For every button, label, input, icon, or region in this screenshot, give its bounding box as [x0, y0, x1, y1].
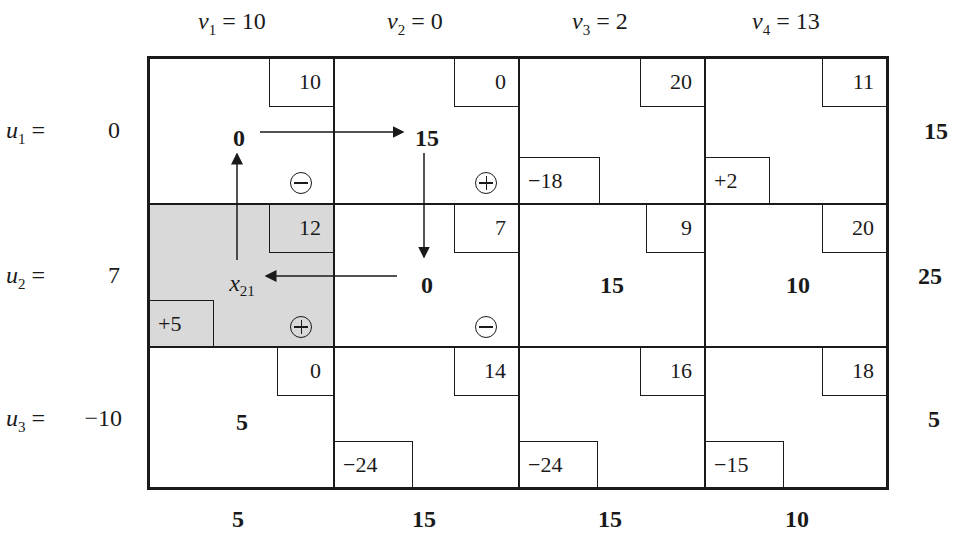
cost-box: 20 [640, 59, 704, 107]
reduced-cost-box: −18 [520, 157, 600, 203]
reduced-cost-box: +5 [150, 300, 214, 346]
supply-row-1: 15 [924, 118, 948, 145]
cost-box: 0 [277, 348, 333, 396]
transportation-tableau: 10 0 0 15 20 −18 11 +2 12 x21 +5 7 0 9 1… [147, 56, 889, 490]
cell-3-1: 0 5 [150, 348, 335, 487]
minus-circle-icon [475, 316, 497, 338]
cost-box: 11 [822, 59, 886, 107]
demand-col-4: 10 [785, 506, 809, 533]
cell-2-1-entering: 12 x21 +5 [150, 205, 335, 348]
allocation: 0 [233, 125, 245, 152]
allocation: 5 [236, 409, 248, 436]
cost-box: 0 [454, 59, 518, 107]
plus-circle-icon [290, 316, 312, 338]
cell-2-3: 9 15 [520, 205, 706, 348]
cell-2-4: 20 10 [706, 205, 886, 348]
reduced-cost-box: −24 [335, 441, 413, 487]
cell-1-2: 0 15 [335, 59, 520, 205]
allocation: 15 [415, 125, 439, 152]
cost-box: 7 [454, 205, 518, 253]
minus-circle-icon [290, 172, 312, 194]
reduced-cost-box: +2 [706, 157, 770, 203]
column-potential-v4: v4 = 13 [752, 8, 820, 39]
reduced-cost-box: −24 [520, 441, 598, 487]
cell-3-2: 14 −24 [335, 348, 520, 487]
cell-1-3: 20 −18 [520, 59, 706, 205]
row-potential-u2: u2 = 7 [6, 262, 120, 293]
cost-box: 18 [822, 348, 886, 396]
demand-col-1: 5 [232, 506, 244, 533]
cell-1-4: 11 +2 [706, 59, 886, 205]
cell-3-3: 16 −24 [520, 348, 706, 487]
cost-box: 14 [454, 348, 518, 396]
cost-box: 12 [269, 205, 333, 253]
cell-2-2: 7 0 [335, 205, 520, 348]
cost-box: 9 [646, 205, 704, 253]
cost-box: 20 [822, 205, 886, 253]
allocation: 10 [786, 272, 810, 299]
supply-row-2: 25 [918, 263, 942, 290]
column-potential-v3: v3 = 2 [572, 8, 628, 39]
cost-box: 16 [640, 348, 704, 396]
row-potential-u1: u1 = 0 [6, 117, 120, 148]
row-potential-u3: u3 = −10 [6, 405, 122, 436]
cost-box: 10 [269, 59, 333, 107]
cell-1-1: 10 0 [150, 59, 335, 205]
entering-variable-x21: x21 [229, 270, 255, 301]
reduced-cost-box: −15 [706, 441, 784, 487]
column-potential-v1: v1 = 10 [198, 8, 266, 39]
demand-col-2: 15 [412, 506, 436, 533]
supply-row-3: 5 [928, 406, 940, 433]
cell-3-4: 18 −15 [706, 348, 886, 487]
demand-col-3: 15 [598, 506, 622, 533]
plus-circle-icon [475, 172, 497, 194]
allocation: 15 [600, 272, 624, 299]
allocation: 0 [421, 272, 433, 299]
column-potential-v2: v2 = 0 [387, 8, 443, 39]
